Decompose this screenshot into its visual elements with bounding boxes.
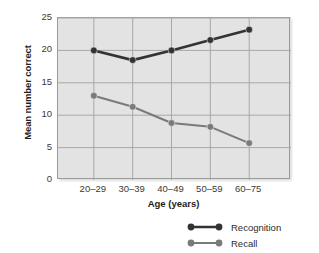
legend-swatch-icon (186, 220, 224, 234)
plot-area (57, 17, 290, 179)
y-axis-tick-labels: 0510152025 (34, 0, 52, 253)
y-tick-label: 5 (34, 142, 52, 152)
data-point-recognition (129, 57, 136, 64)
y-tick-label: 20 (34, 44, 52, 54)
data-point-recall (168, 120, 175, 127)
data-point-recall (129, 103, 136, 110)
data-point-recall (90, 92, 97, 99)
legend-label: Recognition (224, 222, 281, 233)
x-axis-title: Age (years) (57, 198, 290, 209)
x-axis-tick-labels: 20–2930–3940–4950–5960–75 (57, 183, 290, 197)
data-point-recognition (207, 37, 214, 44)
legend-label: Recall (224, 238, 257, 249)
x-tick-label: 60–75 (225, 183, 271, 194)
y-axis-title: Mean number correct (22, 23, 33, 163)
legend-marker (216, 240, 223, 247)
data-point-recognition (168, 47, 175, 54)
legend-marker (188, 224, 195, 231)
data-point-recognition (90, 47, 97, 54)
legend-marker (216, 224, 223, 231)
plot-svg (58, 18, 291, 180)
legend-swatch-icon (186, 236, 224, 250)
data-point-recall (207, 123, 214, 130)
legend-item-recognition[interactable]: Recognition (186, 219, 319, 235)
y-tick-label: 0 (34, 174, 52, 184)
chart-figure: Mean number correct 0510152025 20–2930–3… (0, 0, 319, 253)
y-tick-label: 10 (34, 109, 52, 119)
legend-marker (188, 240, 195, 247)
legend-item-recall[interactable]: Recall (186, 235, 319, 251)
y-tick-label: 25 (34, 12, 52, 22)
data-point-recognition (246, 26, 253, 33)
y-tick-label: 15 (34, 77, 52, 87)
chart-legend: RecognitionRecall (186, 219, 319, 251)
data-point-recall (246, 140, 253, 147)
